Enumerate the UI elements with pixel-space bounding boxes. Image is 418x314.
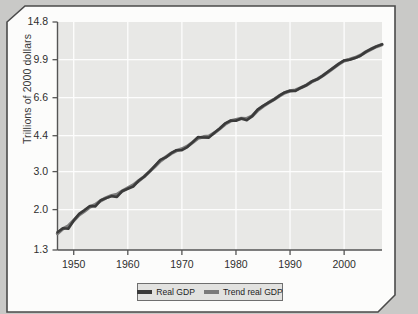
x-tick-label: 1970: [160, 258, 204, 270]
legend-swatch-icon: [137, 290, 152, 294]
y-axis-title: Trillions of 2000 dollars: [21, 4, 33, 174]
x-tick-label: 1950: [52, 258, 96, 270]
legend-label: Real GDP: [156, 287, 195, 297]
x-tick-label: 2000: [322, 258, 366, 270]
x-tick-label: 1960: [106, 258, 150, 270]
legend-swatch-icon: [204, 290, 219, 294]
gdp-chart-figure: 14.8 9.9 6.6 4.4 3.0 2.0 1.3 1950 1960 1…: [0, 0, 418, 314]
x-axis-tick-labels: 1950 1960 1970 1980 1990 2000: [0, 0, 418, 314]
chart-legend: Real GDP Trend real GDP: [137, 283, 283, 301]
legend-item-trend-real-gdp: Trend real GDP: [204, 287, 283, 297]
x-tick-label: 1990: [268, 258, 312, 270]
x-tick-label: 1980: [214, 258, 258, 270]
legend-item-real-gdp: Real GDP: [137, 287, 195, 297]
legend-label: Trend real GDP: [223, 287, 283, 297]
